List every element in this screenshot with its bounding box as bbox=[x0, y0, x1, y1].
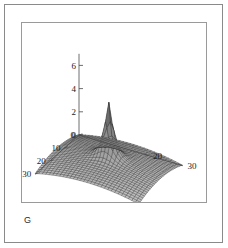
svg-text:2: 2 bbox=[72, 107, 77, 117]
svg-text:4: 4 bbox=[72, 84, 77, 94]
svg-text:6: 6 bbox=[72, 61, 77, 71]
figure-label: G bbox=[24, 215, 31, 225]
svg-text:10: 10 bbox=[51, 143, 61, 153]
svg-text:30: 30 bbox=[22, 169, 32, 179]
plot-frame: 024601020302030 bbox=[21, 22, 207, 203]
figure-container: 024601020302030 G bbox=[0, 0, 228, 248]
svg-text:0: 0 bbox=[71, 130, 76, 140]
svg-text:20: 20 bbox=[37, 156, 47, 166]
svg-text:20: 20 bbox=[153, 151, 163, 161]
surface-plot-3d: 024601020302030 bbox=[22, 23, 206, 202]
svg-text:30: 30 bbox=[188, 161, 198, 171]
